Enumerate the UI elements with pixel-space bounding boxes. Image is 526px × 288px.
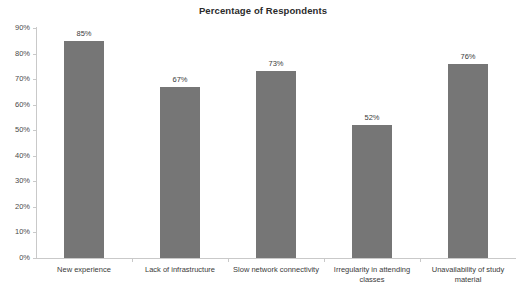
y-axis-tick-label: 60%: [15, 100, 30, 109]
bar-value-label: 67%: [172, 75, 187, 84]
x-axis-category-label: Lack of infrastructure: [132, 265, 228, 275]
bar: [64, 41, 104, 258]
x-axis-line: [36, 258, 516, 259]
bar-group: 52%: [324, 28, 420, 258]
y-axis-tick-label: 80%: [15, 49, 30, 58]
y-axis-tick-label: 90%: [15, 23, 30, 32]
x-axis-category-label: Irregularity in attending classes: [324, 265, 420, 284]
bar-value-label: 73%: [268, 59, 283, 68]
y-axis-tick-label: 40%: [15, 151, 30, 160]
x-axis-tick-mark: [228, 258, 229, 262]
y-axis-tick-label: 20%: [15, 202, 30, 211]
bar-group: 67%: [132, 28, 228, 258]
x-axis-category-label: New experience: [36, 265, 132, 275]
bar-group: 73%: [228, 28, 324, 258]
bar-group: 76%: [420, 28, 516, 258]
bar: [256, 71, 296, 258]
x-axis-tick-mark: [324, 258, 325, 262]
y-axis-tick-label: 0%: [19, 253, 30, 262]
x-axis-tick-mark: [420, 258, 421, 262]
y-axis-tick-label: 30%: [15, 176, 30, 185]
bar: [352, 125, 392, 258]
y-axis-tick-label: 10%: [15, 227, 30, 236]
x-axis-tick-mark: [132, 258, 133, 262]
bar-group: 85%: [36, 28, 132, 258]
bar-value-label: 76%: [460, 52, 475, 61]
bar-value-label: 52%: [364, 113, 379, 122]
y-axis-tick-label: 70%: [15, 74, 30, 83]
plot-area: 85%67%73%52%76%: [36, 28, 516, 258]
bar-value-label: 85%: [76, 29, 91, 38]
y-axis-tick-label: 50%: [15, 125, 30, 134]
bar: [448, 64, 488, 258]
x-axis-category-label: Unavailability of study material: [420, 265, 516, 284]
bar-chart: Percentage of Respondents 0%10%20%30%40%…: [0, 0, 526, 288]
x-axis-category-label: Slow network connectivity: [228, 265, 324, 275]
y-axis: 0%10%20%30%40%50%60%70%80%90%: [0, 28, 36, 258]
bar: [160, 87, 200, 258]
chart-title: Percentage of Respondents: [0, 5, 526, 16]
